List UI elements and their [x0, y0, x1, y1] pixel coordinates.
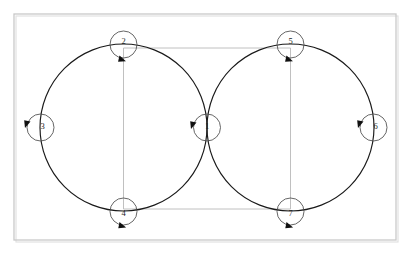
- arrow-node-1: [188, 121, 197, 131]
- node-4-label: 4: [121, 208, 126, 218]
- arrow-node-6: [355, 120, 364, 130]
- node-circles[interactable]: 1234567: [27, 31, 387, 225]
- node-7-label: 7: [288, 208, 292, 218]
- node-2-label: 2: [121, 36, 125, 46]
- arrow-node-7: [285, 222, 295, 231]
- node-1-label: 1: [205, 121, 209, 131]
- node-3-label: 3: [40, 121, 44, 131]
- loop-diagram: 1234567: [0, 0, 415, 255]
- node-6-label: 6: [373, 121, 377, 131]
- arrow-node-3: [22, 120, 31, 130]
- arrow-node-4: [118, 222, 128, 231]
- node-5-label: 5: [288, 36, 292, 46]
- diagram-canvas: 1234567: [0, 0, 415, 255]
